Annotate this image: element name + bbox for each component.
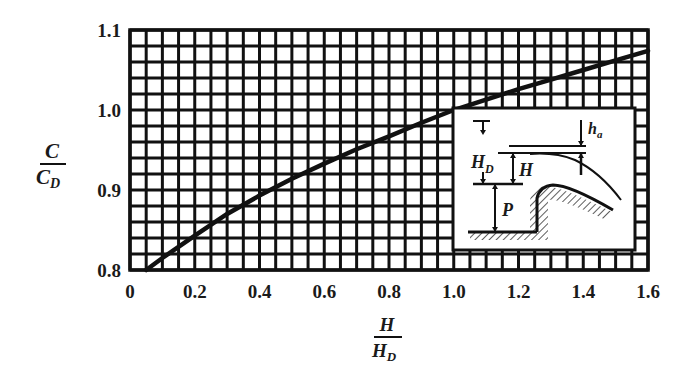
chart: HD H P ha 00.20.40.60.81.01.21.41.6 0.80…: [0, 0, 692, 390]
inset-label-P: P: [501, 200, 514, 220]
x-tick-label: 0: [125, 281, 135, 302]
x-tick-label: 1.4: [571, 281, 595, 302]
x-tick-label: 0.2: [183, 281, 207, 302]
x-axis-ticks: 00.20.40.60.81.01.21.41.6: [125, 281, 660, 302]
inset-diagram: HD H P ha: [453, 108, 635, 250]
x-tick-label: 1.6: [636, 281, 660, 302]
y-tick-label: 1.0: [97, 100, 121, 121]
svg-text:H: H: [379, 314, 396, 335]
y-tick-label: 0.8: [97, 260, 121, 281]
inset-label-H: H: [518, 160, 534, 180]
x-tick-label: 0.4: [248, 281, 272, 302]
svg-text:HD: HD: [371, 340, 397, 364]
x-axis-label: H HD: [371, 314, 402, 364]
svg-text:C: C: [45, 139, 60, 163]
y-axis-ticks: 0.80.91.01.1: [97, 20, 121, 281]
y-tick-label: 1.1: [97, 20, 121, 41]
x-tick-label: 0.6: [312, 281, 336, 302]
x-tick-label: 1.2: [507, 281, 531, 302]
y-tick-label: 0.9: [97, 180, 121, 201]
svg-text:CD: CD: [36, 165, 60, 191]
x-tick-label: 0.8: [377, 281, 401, 302]
x-tick-label: 1.0: [442, 281, 466, 302]
y-axis-label: C CD: [36, 139, 66, 191]
